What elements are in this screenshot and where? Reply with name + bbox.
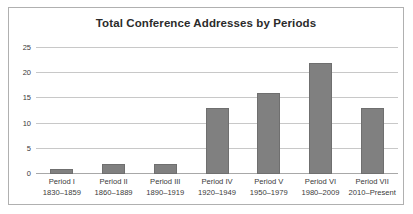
bar-slot bbox=[191, 48, 243, 174]
x-axis-label-range: 1890–1919 bbox=[139, 188, 191, 199]
x-axis-label-range: 1950–1979 bbox=[243, 188, 295, 199]
x-axis-label-period: Period VI bbox=[305, 177, 336, 186]
bar-period-ii[interactable] bbox=[102, 164, 125, 174]
bar-slot bbox=[139, 48, 191, 174]
y-axis-tick-label: 15 bbox=[23, 93, 31, 102]
bar-series bbox=[36, 48, 398, 174]
x-axis-label-range: 1920–1949 bbox=[191, 188, 243, 199]
bar-period-iv[interactable] bbox=[206, 108, 229, 174]
bar-period-i[interactable] bbox=[50, 169, 73, 174]
x-axis-label: Period VII2010–Present bbox=[346, 177, 398, 198]
y-axis-tick-label: 25 bbox=[23, 43, 31, 52]
x-axis-label: Period III1890–1919 bbox=[139, 177, 191, 198]
y-axis-tick-label: 0 bbox=[27, 169, 31, 178]
x-axis-label-range: 1980–2009 bbox=[295, 188, 347, 199]
bar-slot bbox=[88, 48, 140, 174]
bar-period-vi[interactable] bbox=[309, 63, 332, 174]
x-axis-label-period: Period V bbox=[254, 177, 283, 186]
x-axis-label: Period II1860–1889 bbox=[88, 177, 140, 198]
x-axis-labels: Period I1830–1859Period II1860–1889Perio… bbox=[36, 177, 398, 198]
bar-slot bbox=[36, 48, 88, 174]
plot-area: 0510152025 bbox=[36, 48, 398, 174]
x-axis-label: Period IV1920–1949 bbox=[191, 177, 243, 198]
bar-slot bbox=[295, 48, 347, 174]
bar-slot bbox=[243, 48, 295, 174]
x-axis-label: Period VI1980–2009 bbox=[295, 177, 347, 198]
y-axis-tick-label: 5 bbox=[27, 143, 31, 152]
bar-period-vii[interactable] bbox=[361, 108, 384, 174]
y-axis-tick-label: 10 bbox=[23, 118, 31, 127]
x-axis-label-range: 1860–1889 bbox=[88, 188, 140, 199]
x-axis-label-range: 2010–Present bbox=[346, 188, 398, 199]
bar-slot bbox=[346, 48, 398, 174]
chart-container: Total Conference Addresses by Periods 05… bbox=[8, 7, 404, 205]
bar-period-iii[interactable] bbox=[154, 164, 177, 174]
x-axis-label-range: 1830–1859 bbox=[36, 188, 88, 199]
y-axis-tick-label: 20 bbox=[23, 68, 31, 77]
x-axis-label-period: Period II bbox=[99, 177, 127, 186]
x-axis-label-period: Period III bbox=[150, 177, 180, 186]
x-axis-label-period: Period VII bbox=[355, 177, 388, 186]
x-axis-label-period: Period I bbox=[49, 177, 75, 186]
x-axis-label: Period I1830–1859 bbox=[36, 177, 88, 198]
x-axis-label-period: Period IV bbox=[201, 177, 232, 186]
chart-title: Total Conference Addresses by Periods bbox=[9, 17, 403, 29]
x-axis-label: Period V1950–1979 bbox=[243, 177, 295, 198]
bar-period-v[interactable] bbox=[257, 93, 280, 174]
